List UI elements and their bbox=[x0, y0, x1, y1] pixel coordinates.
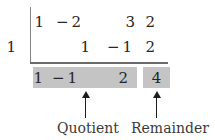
remainder-label: Remainder bbox=[128, 119, 212, 137]
quotient-arrow-icon bbox=[81, 91, 90, 118]
quotient-cell-3: 2 bbox=[98, 69, 128, 87]
synthetic-division-figure: 1 1 − 2 3 2 1 − 1 2 1 − 1 2 4 Quotient R… bbox=[0, 0, 215, 140]
sum-line bbox=[30, 62, 168, 64]
quotient-cell-2: − 1 bbox=[49, 69, 77, 87]
product-cell-1: 1 bbox=[60, 38, 90, 56]
coefficient-cell-4: 2 bbox=[125, 13, 155, 31]
quotient-cell-1: 1 bbox=[33, 69, 43, 87]
arrow-stem bbox=[156, 98, 158, 118]
product-cell-3: 2 bbox=[125, 38, 155, 56]
arrow-head bbox=[82, 91, 90, 98]
quotient-label: Quotient bbox=[54, 119, 122, 137]
arrow-stem bbox=[85, 98, 87, 118]
coefficient-cell-1: 1 bbox=[33, 13, 44, 31]
coefficient-cell-2: − 2 bbox=[53, 13, 81, 31]
arrow-head bbox=[153, 91, 161, 98]
division-bracket-vertical-line bbox=[30, 7, 31, 63]
remainder-arrow-icon bbox=[152, 91, 161, 118]
remainder-value: 4 bbox=[143, 69, 170, 87]
divisor-value: 1 bbox=[2, 38, 16, 56]
